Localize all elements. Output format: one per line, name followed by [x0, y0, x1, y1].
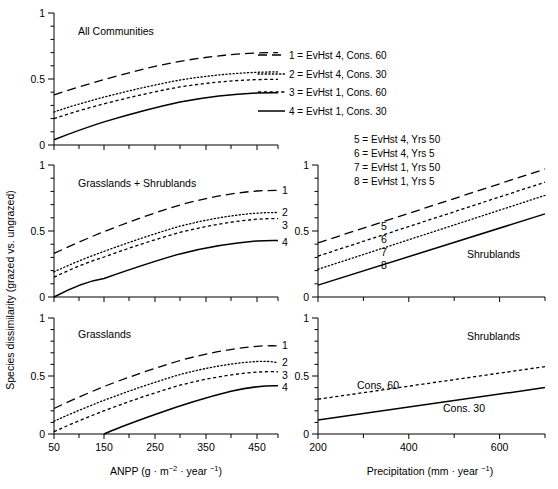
- panel3-label-2: 2: [282, 356, 288, 368]
- legend-item-8: 8 = EvHst 1, Yrs 5: [354, 176, 435, 187]
- legend-item-1: 1 = EvHst 4, Cons. 60: [289, 50, 387, 61]
- panel4-y-ticks: [312, 165, 318, 297]
- figure-container: Species dissimilarity (grazed vs. ungraz…: [0, 0, 558, 489]
- legend-primary: 1 = EvHst 4, Cons. 60 2 = EvHst 4, Cons.…: [258, 50, 387, 117]
- legend-item-2: 2 = EvHst 4, Cons. 30: [289, 69, 387, 80]
- panel2-y-ticks: [48, 165, 54, 297]
- figure-svg: Species dissimilarity (grazed vs. ungraz…: [0, 0, 558, 489]
- xlabel-right-end: ): [490, 465, 494, 477]
- xlabel-left-mid: · year: [177, 465, 210, 477]
- panel5-ytick-0: 0: [303, 428, 309, 440]
- xlabel-right-sup: −1: [481, 464, 490, 473]
- xlabel-left-end: ): [219, 465, 223, 477]
- panel5-xtick-200: 200: [309, 441, 327, 453]
- panel3-curve-1: [54, 346, 278, 409]
- panel3-label-3: 3: [282, 369, 288, 381]
- panel5-ytick-1: 1: [303, 312, 309, 324]
- x-axis-title-left: ANPP (g · m−2 · year −1): [110, 464, 222, 477]
- panel2-label-3: 3: [282, 219, 288, 231]
- panel3-xtick-350: 350: [197, 441, 215, 453]
- panel1-ytick-0: 0: [39, 139, 45, 151]
- xlabel-right-main: Precipitation (mm · year: [367, 465, 481, 477]
- panel2-curve-labels: 1 2 3 4: [282, 184, 288, 248]
- panel3-label-4: 4: [282, 381, 288, 393]
- panel4-ytick-1: 1: [303, 159, 309, 171]
- panel-grasslands: 0 0.5 1 50 150 250 350 450 Grasslands: [30, 312, 278, 454]
- panel-shrublands-cons: 0 0.5 1 200 400 600 Shrublands Cons. 60 …: [294, 312, 545, 454]
- panel2-ytick-1: 1: [39, 159, 45, 171]
- panel3-ytick-0.5: 0.5: [30, 370, 45, 382]
- xlabel-left-sup2: −1: [210, 464, 219, 473]
- xlabel-left-main: ANPP (g · m: [110, 465, 169, 477]
- panel3-ytick-1: 1: [39, 312, 45, 324]
- panel1-ytick-1: 1: [39, 7, 45, 19]
- panel5-line-cons30: [318, 388, 545, 421]
- panel3-curve-2: [54, 361, 278, 421]
- panel2-curve-4: [54, 241, 278, 297]
- panel3-ytick-0: 0: [39, 428, 45, 440]
- legend-item-6: 6 = EvHst 4, Yrs 5: [354, 148, 435, 159]
- panel3-label-1: 1: [282, 339, 288, 351]
- panel5-label-cons30: Cons. 30: [443, 402, 485, 414]
- panel1-curve-3: [54, 79, 278, 118]
- panel2-label-4: 4: [282, 236, 288, 248]
- panel3-xtick-50: 50: [48, 441, 60, 453]
- panel5-y-ticks: [312, 318, 318, 434]
- panel4-x-ticks: [318, 297, 545, 302]
- panel2-label-1: 1: [282, 184, 288, 196]
- panel1-curve-2: [54, 72, 278, 112]
- panel3-xtick-150: 150: [95, 441, 113, 453]
- panel4-label-7: 7: [381, 246, 387, 258]
- panel4-ytick-0: 0: [303, 291, 309, 303]
- panel2-ytick-0.5: 0.5: [30, 225, 45, 237]
- panel3-curve-4: [104, 386, 278, 434]
- panel3-y-ticks: [48, 318, 54, 434]
- panel4-label-5: 5: [381, 220, 387, 232]
- panel5-title: Shrublands: [467, 330, 520, 342]
- panel2-label-2: 2: [282, 206, 288, 218]
- panel3-xtick-450: 450: [248, 441, 266, 453]
- xlabel-left-sup1: −2: [169, 464, 178, 473]
- panel5-x-ticks: [318, 434, 545, 439]
- legend-item-5: 5 = EvHst 4, Yrs 50: [354, 134, 441, 145]
- panel1-x-ticks: [54, 145, 278, 150]
- panel3-x-ticks: [54, 434, 278, 439]
- panel2-x-ticks: [54, 297, 278, 302]
- panel4-ytick-0.5: 0.5: [294, 225, 309, 237]
- panel1-ytick-0.5: 0.5: [30, 73, 45, 85]
- panel5-ytick-0.5: 0.5: [294, 370, 309, 382]
- panel1-title: All Communities: [78, 25, 154, 37]
- panel4-line-6: [318, 182, 545, 256]
- panel3-curve-3: [54, 372, 278, 432]
- panel5-line-cons60: [318, 367, 545, 400]
- panel2-curve-3: [54, 219, 278, 278]
- panel2-title: Grasslands + Shrublands: [78, 177, 196, 189]
- panel1-y-ticks: [48, 13, 54, 145]
- panel3-xtick-250: 250: [146, 441, 164, 453]
- panel-grasslands-shrublands: 0 0.5 1 Grasslands + Shrublands: [30, 159, 278, 303]
- panel1-curve-4: [54, 93, 278, 140]
- panel4-label-6: 6: [381, 233, 387, 245]
- panel1-curve-1: [54, 53, 278, 95]
- panel-all-communities: 0 0.5 1 All Communities: [30, 7, 278, 151]
- panel3-curve-labels: 1 2 3 4: [282, 339, 288, 393]
- legend-item-3: 3 = EvHst 1, Cons. 60: [289, 87, 387, 98]
- panel4-label-8: 8: [381, 259, 387, 271]
- legend-item-7: 7 = EvHst 1, Yrs 50: [354, 162, 441, 173]
- legend-secondary: 5 = EvHst 4, Yrs 50 6 = EvHst 4, Yrs 5 7…: [354, 134, 441, 187]
- panel5-xtick-600: 600: [491, 441, 509, 453]
- x-axis-title-right: Precipitation (mm · year −1): [367, 464, 493, 477]
- panel2-curve-1: [54, 190, 278, 253]
- panel5-label-cons60: Cons. 60: [357, 379, 399, 391]
- panel2-ytick-0: 0: [39, 291, 45, 303]
- y-axis-title: Species dissimilarity (grazed vs. ungraz…: [4, 190, 16, 390]
- panel3-title: Grasslands: [78, 328, 131, 340]
- panel5-xtick-400: 400: [400, 441, 418, 453]
- panel4-title: Shrublands: [467, 248, 520, 260]
- legend-item-4: 4 = EvHst 1, Cons. 30: [289, 106, 387, 117]
